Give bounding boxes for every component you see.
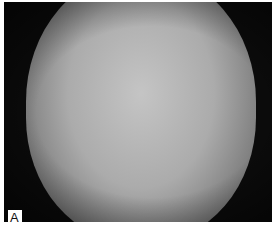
clinical-photograph [4,2,272,222]
photo-vignette [4,2,272,222]
figure-panel: A [0,0,276,228]
panel-label: A [8,210,22,224]
